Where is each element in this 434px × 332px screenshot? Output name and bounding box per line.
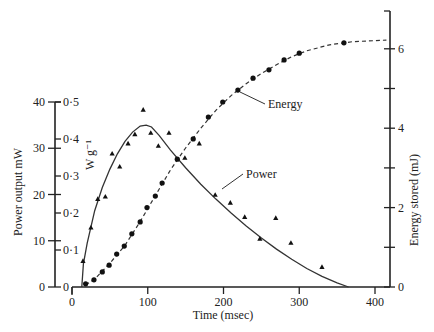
energy-data-point [282,57,287,62]
energy-data-point [297,51,302,56]
energy-data-point [100,269,105,274]
y-tick-label-left: 20 [33,188,45,202]
x-tick-label: 400 [366,295,384,309]
power-data-point [273,215,278,220]
power-data-point [156,143,161,148]
energy-data-point [138,219,143,224]
data-markers [80,40,346,286]
power-data-point [213,192,218,197]
power-data-point [141,107,146,112]
power-data-point [197,141,202,146]
y-axis-title-inner: W g⁻¹ [83,140,97,170]
energy-data-point [266,67,271,72]
power-data-point [166,130,171,135]
y-tick-label-left: 10 [33,234,45,248]
y-tick-label-right: 6 [398,42,404,56]
y-tick-label-right: 2 [398,201,404,215]
energy-leader-line [240,92,265,104]
energy-series-label: Energy [268,97,302,111]
x-tick-label: 300 [290,295,308,309]
energy-data-point [144,205,149,210]
y-tick-label-right: 4 [398,121,404,135]
x-tick-label: 0 [69,295,75,309]
energy-data-point [91,277,96,282]
energy-data-point [175,157,180,162]
y-tick-label-left: 40 [33,95,45,109]
energy-data-point [235,87,240,92]
energy-data-point [206,114,211,119]
energy-data-point [220,99,225,104]
y-tick-label-left: 30 [33,141,45,155]
y-tick-label-inner: 0·3 [63,169,79,183]
y-tick-label-inner: 0·1 [63,243,79,257]
y-tick-label-inner: 0 [63,280,69,294]
power-data-point [117,164,122,169]
energy-data-point [122,244,127,249]
y-tick-label-inner: 0·5 [63,95,79,109]
energy-fit-curve [86,40,387,285]
power-data-point [110,151,115,156]
energy-data-point [129,231,134,236]
energy-data-point [114,251,119,256]
energy-data-point [341,40,346,45]
power-data-point [88,225,93,230]
power-energy-chart: 01020304000·10·20·30·40·5010020030040002… [0,0,434,332]
x-tick-label: 200 [215,295,233,309]
power-fit-curve [82,125,349,287]
energy-data-point [160,180,165,185]
power-data-point [242,214,247,219]
y-tick-label-right: 0 [398,280,404,294]
energy-data-point [153,193,158,198]
y-axis-title-left: Power output mW [11,147,25,236]
power-leader-line [222,174,243,189]
y-tick-label-inner: 0·2 [63,206,79,220]
x-axis-title: Time (msec) [193,308,254,322]
y-tick-label-inner: 0·4 [63,132,79,146]
energy-data-point [83,281,88,286]
power-data-point [182,155,187,160]
power-data-point [103,194,108,199]
power-data-point [148,130,153,135]
power-series-label: Power [246,167,277,181]
energy-data-point [250,76,255,81]
power-data-point [228,200,233,205]
y-tick-label-left: 0 [39,280,45,294]
y-axis-title-right: Energy stored (mJ) [407,154,421,246]
power-data-point [319,264,324,269]
power-data-point [125,141,130,146]
x-tick-label: 100 [139,295,157,309]
energy-data-point [107,263,112,268]
series-annotations: EnergyPower [222,92,302,189]
fit-curves [82,40,387,287]
power-data-point [288,240,293,245]
energy-data-point [191,136,196,141]
